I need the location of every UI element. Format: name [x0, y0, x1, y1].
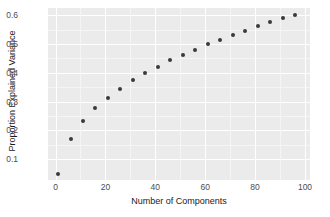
y-tick-label: 0.2	[0, 126, 18, 135]
y-tick-label: 0.4	[0, 69, 18, 78]
scree-plot-chart: Number of Components Proportion Explaine…	[0, 0, 330, 217]
data-point	[131, 78, 135, 82]
gridline-horizontal-minor	[48, 58, 310, 59]
data-point	[206, 42, 210, 46]
data-point	[293, 13, 297, 17]
gridline-horizontal	[48, 44, 310, 45]
gridline-vertical	[255, 8, 256, 180]
data-point	[256, 24, 260, 28]
gridline-vertical-minor	[180, 8, 181, 180]
gridline-horizontal	[48, 15, 310, 16]
gridline-vertical	[105, 8, 106, 180]
gridline-horizontal	[48, 102, 310, 103]
gridline-vertical	[56, 8, 57, 180]
data-point	[106, 96, 110, 100]
gridline-horizontal-minor	[48, 145, 310, 146]
data-point	[81, 119, 85, 123]
data-point	[143, 71, 147, 75]
x-tick-label: 20	[85, 183, 125, 192]
gridline-horizontal-minor	[48, 30, 310, 31]
gridline-horizontal	[48, 130, 310, 131]
gridline-vertical	[205, 8, 206, 180]
gridline-horizontal-minor	[48, 87, 310, 88]
gridline-vertical-minor	[130, 8, 131, 180]
gridline-horizontal-minor	[48, 116, 310, 117]
y-tick-label: 0.3	[0, 98, 18, 107]
plot-panel	[48, 8, 310, 180]
data-point	[69, 137, 73, 141]
x-axis-title: Number of Components	[48, 196, 310, 206]
x-tick-label: 60	[185, 183, 225, 192]
data-point	[156, 65, 160, 69]
gridline-vertical-minor	[280, 8, 281, 180]
gridline-vertical	[305, 8, 306, 180]
data-point	[243, 29, 247, 33]
data-point	[193, 48, 197, 52]
x-tick-label: 80	[235, 183, 275, 192]
x-tick-label: 100	[285, 183, 325, 192]
data-point	[118, 87, 122, 91]
y-axis-title: Proportion Explained Variance	[7, 5, 17, 177]
y-tick-label: 0.1	[0, 155, 18, 164]
data-point	[93, 106, 97, 110]
data-point	[181, 53, 185, 57]
data-point	[218, 38, 222, 42]
gridline-vertical	[155, 8, 156, 180]
gridline-horizontal	[48, 159, 310, 160]
x-tick-label: 0	[36, 183, 76, 192]
y-tick-label: 0.5	[0, 40, 18, 49]
data-point	[56, 172, 60, 176]
data-point	[268, 20, 272, 24]
data-point	[168, 58, 172, 62]
gridline-horizontal	[48, 73, 310, 74]
data-point	[231, 33, 235, 37]
y-tick-label: 0.6	[0, 11, 18, 20]
x-tick-label: 40	[135, 183, 175, 192]
data-point	[281, 16, 285, 20]
gridline-vertical-minor	[80, 8, 81, 180]
